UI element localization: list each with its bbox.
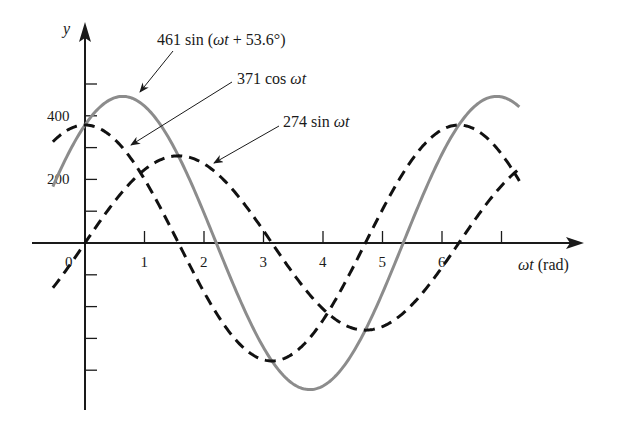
- annotation-461-sin: 461 sin (ωt + 53.6°): [157, 31, 286, 49]
- x-axis-label: ωt (rad): [518, 256, 569, 274]
- annotation-arrow-icon: [214, 126, 279, 163]
- y-tick-label: 400: [47, 108, 70, 124]
- annotation-arrow-icon: [140, 51, 173, 92]
- annotations: 461 sin (ωt + 53.6°) 371 cos ωt 274 sin …: [131, 31, 350, 163]
- x-tick-label: 4: [319, 254, 327, 270]
- x-tick-label: 1: [141, 254, 149, 270]
- chart: 0123456 200400 y ωt (rad) 461 sin (ωt + …: [0, 0, 620, 430]
- x-ticks: 0123456: [65, 231, 502, 270]
- x-tick-label: 2: [200, 254, 208, 270]
- annotation-arrow-icon: [131, 82, 232, 145]
- x-tick-label: 3: [260, 254, 268, 270]
- annotation-371-cos: 371 cos ωt: [237, 70, 307, 87]
- axes: 0123456 200400: [32, 22, 584, 410]
- x-tick-label: 5: [379, 254, 387, 270]
- annotation-274-sin: 274 sin ωt: [283, 113, 350, 130]
- y-axis-label: y: [61, 20, 71, 38]
